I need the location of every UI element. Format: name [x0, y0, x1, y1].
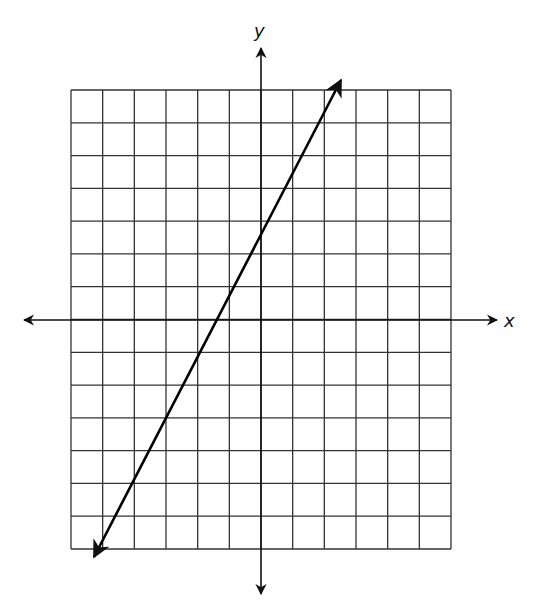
x-axis-label: x [503, 310, 515, 331]
coordinate-plane: x y [0, 0, 534, 611]
y-axis-label: y [253, 20, 265, 41]
graphed-line [94, 80, 341, 557]
